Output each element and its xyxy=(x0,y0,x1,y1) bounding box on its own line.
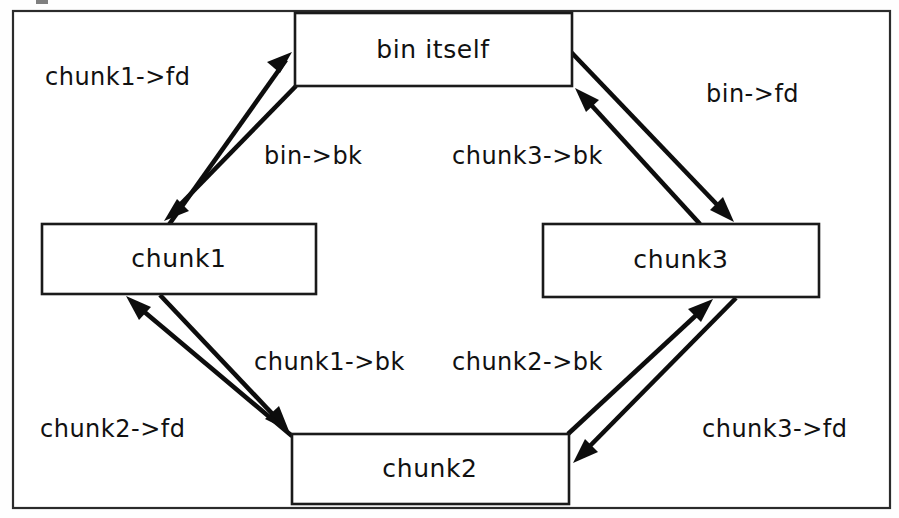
diagram-canvas: bin itself chunk1 chunk3 chunk2 chunk1->… xyxy=(0,0,899,518)
node-chunk1[interactable]: chunk1 xyxy=(42,224,316,294)
figure-root: bin itself chunk1 chunk3 chunk2 chunk1->… xyxy=(0,0,899,518)
edge-label-bin-fd: bin->fd xyxy=(706,80,799,108)
node-chunk3[interactable]: chunk3 xyxy=(543,224,819,297)
edge-label-chunk2-fd: chunk2->fd xyxy=(40,415,185,443)
edge-label-chunk1-bk: chunk1->bk xyxy=(254,348,405,376)
node-label: bin itself xyxy=(376,35,490,64)
node-bin[interactable]: bin itself xyxy=(295,13,572,86)
edge-label-chunk2-bk: chunk2->bk xyxy=(452,348,603,376)
edge-label-chunk3-fd: chunk3->fd xyxy=(702,415,847,443)
node-label: chunk3 xyxy=(633,245,728,274)
node-label: chunk2 xyxy=(382,454,477,483)
node-chunk2[interactable]: chunk2 xyxy=(292,434,569,504)
node-label: chunk1 xyxy=(131,244,226,273)
edge-label-chunk1-fd: chunk1->fd xyxy=(45,63,190,91)
edge-label-chunk3-bk: chunk3->bk xyxy=(452,142,603,170)
edge-label-bin-bk: bin->bk xyxy=(264,142,363,170)
scan-artifact-speck xyxy=(36,0,48,4)
